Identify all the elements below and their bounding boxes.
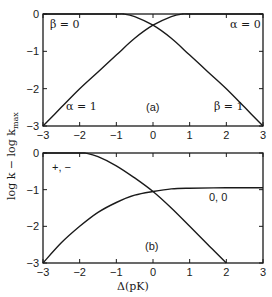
x-tick-label: 2 bbox=[223, 266, 229, 278]
label-beta-0: β = 0 bbox=[50, 18, 80, 31]
x-tick-label: −2 bbox=[73, 266, 86, 278]
panel-b: −3−2−10123 0−1−2−3 +, − 0, 0 (b) bbox=[26, 147, 266, 278]
y-axis-label: log k − log kmax bbox=[5, 112, 20, 200]
x-tick-label: 3 bbox=[260, 266, 266, 278]
y-tick-label: −3 bbox=[26, 120, 39, 132]
y-axis-label-sub: max bbox=[11, 112, 20, 129]
x-tick-label: 3 bbox=[260, 129, 266, 141]
label-alpha-0: α = 0 bbox=[230, 18, 261, 31]
panel-b-y-tick-labels: 0−1−2−3 bbox=[26, 147, 39, 269]
y-tick-label: 0 bbox=[33, 147, 39, 159]
x-tick-label: −1 bbox=[110, 129, 123, 141]
panel-a-x-tick-labels: −3−2−10123 bbox=[37, 129, 266, 141]
label-alpha-1: α = 1 bbox=[66, 100, 97, 113]
y-tick-label: −1 bbox=[26, 45, 39, 57]
x-axis-label: Δ(pK) bbox=[117, 280, 149, 293]
panel-a-y-tick-labels: 0−1−2−3 bbox=[26, 8, 39, 132]
panel-b-label: (b) bbox=[145, 240, 158, 252]
label-beta-1: β = 1 bbox=[214, 100, 244, 113]
x-tick-label: −2 bbox=[73, 129, 86, 141]
y-tick-label: −1 bbox=[26, 184, 39, 196]
x-tick-label: 1 bbox=[187, 266, 193, 278]
figure: −3−2−10123 0−1−2−3 β = 0 α = 0 α = 1 β =… bbox=[0, 0, 272, 297]
y-tick-label: −2 bbox=[26, 83, 39, 95]
x-tick-label: 0 bbox=[150, 266, 156, 278]
y-axis-label-main: log k − log k bbox=[5, 129, 18, 200]
x-tick-label: 2 bbox=[223, 129, 229, 141]
x-tick-label: 1 bbox=[187, 129, 193, 141]
label-zero-zero: 0, 0 bbox=[209, 191, 227, 203]
y-tick-label: −2 bbox=[26, 220, 39, 232]
panel-a-label: (a) bbox=[146, 101, 159, 113]
y-tick-label: 0 bbox=[33, 8, 39, 20]
x-tick-label: −1 bbox=[110, 266, 123, 278]
panel-b-x-tick-labels: −3−2−10123 bbox=[37, 266, 266, 278]
y-tick-label: −3 bbox=[26, 257, 39, 269]
panel-a: −3−2−10123 0−1−2−3 β = 0 α = 0 α = 1 β =… bbox=[26, 8, 266, 141]
label-plus-minus: +, − bbox=[52, 161, 71, 173]
x-tick-label: 0 bbox=[150, 129, 156, 141]
